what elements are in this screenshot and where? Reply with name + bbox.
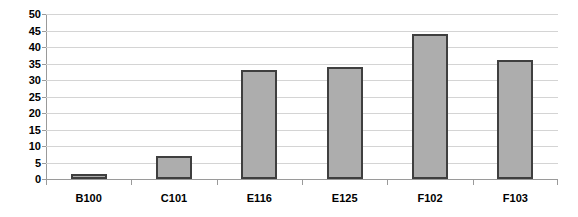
- x-axis-tick-label: C101: [161, 192, 187, 205]
- x-axis-tick-mark: [302, 180, 303, 185]
- y-axis-tick-label: 5: [1, 157, 41, 168]
- y-axis-tick-mark: [42, 179, 46, 180]
- bar-slot: [473, 14, 558, 179]
- y-axis-tick-mark: [42, 130, 46, 131]
- y-axis-tick-label: 35: [1, 58, 41, 69]
- y-axis-tick-mark: [42, 146, 46, 147]
- x-axis-tick-mark: [557, 180, 558, 185]
- y-axis-tick-mark: [42, 64, 46, 65]
- x-axis-tick-label: F103: [503, 192, 528, 205]
- y-axis-tick-mark: [42, 97, 46, 98]
- bar-slot: [217, 14, 302, 179]
- y-axis-tick-label: 20: [1, 108, 41, 119]
- y-axis-tick-mark: [42, 80, 46, 81]
- plot-area: [46, 14, 558, 179]
- y-axis-tick-label: 40: [1, 42, 41, 53]
- y-axis-tick-mark: [42, 113, 46, 114]
- y-axis-tick-label: 10: [1, 141, 41, 152]
- x-axis-tick-mark: [46, 180, 47, 185]
- bar-C101[interactable]: [156, 156, 192, 179]
- bar-B100[interactable]: [71, 174, 107, 179]
- y-axis-tick-labels: 05101520253035404550: [0, 14, 41, 179]
- bar-slot: [302, 14, 387, 179]
- y-axis-tick-mark: [42, 163, 46, 164]
- bar-chart: 05101520253035404550 B100C101E116E125F10…: [0, 0, 578, 217]
- bar-slot: [131, 14, 216, 179]
- x-axis-tick-label: E116: [247, 192, 272, 205]
- y-axis-tick-label: 0: [1, 174, 41, 185]
- x-axis-tick-label: B100: [76, 192, 102, 205]
- y-axis-tick-mark: [42, 14, 46, 15]
- y-axis-tick-label: 30: [1, 75, 41, 86]
- x-axis-tick-mark: [473, 180, 474, 185]
- x-axis-tick-label: E125: [332, 192, 358, 205]
- y-axis-tick-mark: [42, 47, 46, 48]
- x-axis-tick-mark: [131, 180, 132, 185]
- bar-E116[interactable]: [241, 70, 277, 179]
- bar-E125[interactable]: [327, 67, 363, 179]
- x-axis-tick-mark: [387, 180, 388, 185]
- y-axis-tick-label: 45: [1, 25, 41, 36]
- y-axis-tick-label: 50: [1, 9, 41, 20]
- bar-F102[interactable]: [412, 34, 448, 179]
- x-axis: B100C101E116E125F102F103: [46, 180, 558, 217]
- bar-slot: [387, 14, 472, 179]
- bar-slot: [46, 14, 131, 179]
- x-axis-tick-label: F102: [417, 192, 442, 205]
- y-axis-tick-mark: [42, 31, 46, 32]
- y-axis-tick-label: 15: [1, 124, 41, 135]
- x-axis-tick-mark: [217, 180, 218, 185]
- bar-F103[interactable]: [497, 60, 533, 179]
- y-axis-tick-label: 25: [1, 91, 41, 102]
